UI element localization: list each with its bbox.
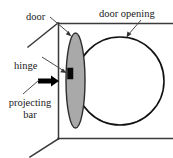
door-opening-circle [76,37,164,125]
hinge-leader-line [42,57,64,71]
door-leader-arrowhead [66,31,72,37]
door-leaf-ellipse [66,33,85,128]
diagram-canvas: door door opening hinge projecting bar [0,0,173,158]
label-door-opening: door opening [99,8,155,19]
wall-diagonal-top-left [28,23,58,47]
wall-diagonal-bottom-left [30,139,58,157]
hinge-group [68,68,74,79]
projecting-bar-leader-line [23,80,39,94]
projecting-bar-group [38,76,59,87]
label-door: door [26,11,46,22]
label-projecting-bar-line2: bar [23,109,37,120]
door-opening-diagram: door door opening hinge projecting bar [0,0,173,158]
label-projecting-bar-line1: projecting [9,97,52,108]
projecting-bar-shaft [38,79,52,84]
hinge-marker [68,68,74,79]
door-opening-leader-line [128,20,141,35]
door-leaf-group [66,33,85,128]
door-opening-circle-group [76,37,164,125]
label-hinge: hinge [14,60,38,71]
door-leader-line [50,17,70,34]
